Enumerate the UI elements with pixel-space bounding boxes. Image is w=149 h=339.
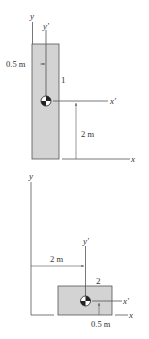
dim-2m-label: 2 m	[50, 254, 63, 264]
x-prime-axis-label: x'	[109, 96, 117, 106]
dim-0-5m-label: 0.5 m	[91, 319, 111, 329]
y-prime-axis-label: y'	[42, 21, 50, 31]
dim-0-5m-label: 0.5 m	[6, 59, 26, 69]
x-prime-axis-label: x'	[122, 296, 130, 306]
dim-2m-label: 2 m	[81, 129, 94, 139]
centroid-icon	[81, 296, 91, 306]
centroid-icon	[41, 96, 51, 106]
y-axis-label: y	[29, 11, 34, 21]
top-figure: y y' 0.5 m 1 x' 2 m x	[6, 11, 135, 164]
y-axis-label: y	[28, 171, 33, 181]
x-axis-label: x	[128, 310, 133, 320]
part-2-label: 2	[96, 276, 101, 286]
y-prime-axis-label: y'	[82, 236, 90, 246]
x-axis-label: x	[130, 154, 135, 164]
part-1-label: 1	[61, 75, 66, 85]
diagram-canvas: y y' 0.5 m 1 x' 2 m x y y' 2 m 2	[0, 0, 149, 339]
bottom-figure: y y' 2 m 2 x' 0.5 m x	[28, 171, 133, 329]
